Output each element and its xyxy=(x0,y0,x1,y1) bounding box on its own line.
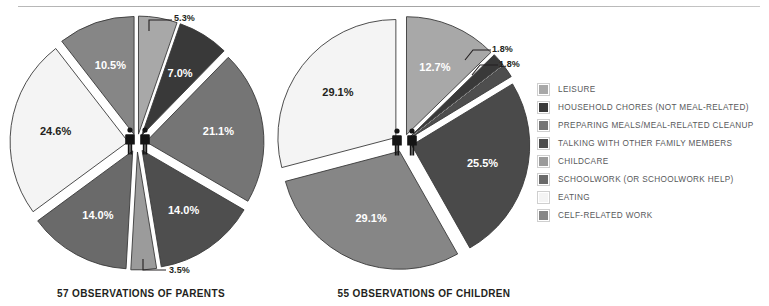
legend-swatch xyxy=(538,174,549,185)
legend-item[interactable]: LEISURE xyxy=(538,80,766,98)
legend-item[interactable]: HOUSEHOLD CHORES (NOT MEAL-RELATED) xyxy=(538,98,766,116)
legend-swatch xyxy=(538,192,549,203)
legend-swatch xyxy=(538,120,549,131)
legend-swatch xyxy=(538,210,549,221)
legend-item[interactable]: SCHOOLWORK (OR SCHOOLWORK HELP) xyxy=(538,170,766,188)
callout-leader-top-parents xyxy=(148,16,174,32)
pie-slice-label: 25.5% xyxy=(467,157,498,169)
legend-item[interactable]: EATING xyxy=(538,188,766,206)
legend-item-label: CHILDCARE xyxy=(558,157,608,166)
pie-canvas-parents: 7.0%21.1%14.0%14.0%24.6%10.5% xyxy=(2,8,272,278)
callout-label-top-children: 1.8% xyxy=(492,44,513,54)
legend-item-label: CELF-RELATED WORK xyxy=(558,211,653,220)
legend-item[interactable]: CHILDCARE xyxy=(538,152,766,170)
pie-slice-label: 29.1% xyxy=(355,212,386,224)
legend-item[interactable]: CELF-RELATED WORK xyxy=(538,206,766,224)
pie-slice-label: 14.0% xyxy=(168,204,199,216)
pie-svg-parents: 7.0%21.1%14.0%14.0%24.6%10.5% xyxy=(2,8,272,278)
callout-label-bottom-parents: 3.5% xyxy=(169,265,190,275)
pie-slice-label: 12.7% xyxy=(419,61,450,73)
legend-item-label: TALKING WITH OTHER FAMILY MEMBERS xyxy=(558,139,732,148)
callout-label-top-parents: 5.3% xyxy=(174,13,195,23)
infographic-page: 7.0%21.1%14.0%14.0%24.6%10.5% 5.3% 3.5% … xyxy=(0,0,769,306)
pie-slice-label: 7.0% xyxy=(168,67,193,79)
legend-swatch xyxy=(538,138,549,149)
pie-slice-label: 21.1% xyxy=(203,125,234,137)
legend-swatch xyxy=(538,84,549,95)
legend-item-label: HOUSEHOLD CHORES (NOT MEAL-RELATED) xyxy=(558,103,749,112)
pie-slice-label: 24.6% xyxy=(40,125,71,137)
legend-item-label: LEISURE xyxy=(558,85,596,94)
legend-item[interactable]: TALKING WITH OTHER FAMILY MEMBERS xyxy=(538,134,766,152)
legend-item-label: PREPARING MEALS/MEAL-RELATED CLEANUP xyxy=(558,121,754,130)
legend-swatch xyxy=(538,156,549,167)
chart-caption-children: 55 OBSERVATIONS OF CHILDREN xyxy=(289,288,559,299)
legend-item-label: SCHOOLWORK (OR SCHOOLWORK HELP) xyxy=(558,175,734,184)
callout-leader-bottom-parents xyxy=(142,258,168,274)
callout-label-bottom-children: 1.8% xyxy=(499,59,520,69)
legend-item-label: EATING xyxy=(558,193,590,202)
legend-swatch xyxy=(538,102,549,113)
pie-chart-parents: 7.0%21.1%14.0%14.0%24.6%10.5% 5.3% 3.5% … xyxy=(2,0,272,306)
pie-slice-label: 10.5% xyxy=(95,59,126,71)
callout-leader-top-children xyxy=(464,47,492,61)
pie-chart-children: 12.7%25.5%29.1%29.1% 1.8% 1.8% 55 OBSERV… xyxy=(268,0,538,306)
pie-slice-label: 29.1% xyxy=(322,86,353,98)
pie-slice-label: 14.0% xyxy=(82,209,113,221)
legend-item[interactable]: PREPARING MEALS/MEAL-RELATED CLEANUP xyxy=(538,116,766,134)
legend: LEISUREHOUSEHOLD CHORES (NOT MEAL-RELATE… xyxy=(538,80,766,224)
chart-caption-parents: 57 OBSERVATIONS OF PARENTS xyxy=(6,288,276,299)
callout-leader-bottom-children xyxy=(471,62,499,76)
